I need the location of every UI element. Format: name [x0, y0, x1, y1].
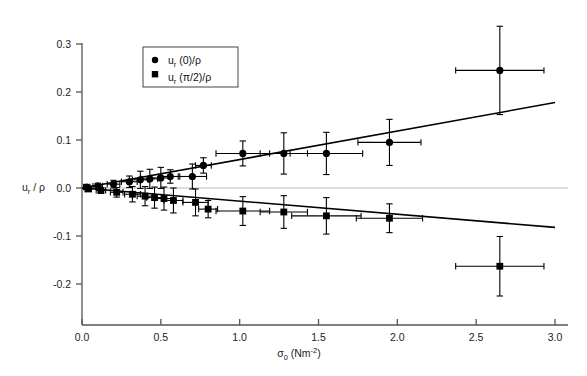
legend-marker-square-icon [152, 71, 158, 77]
data-point-circle [146, 175, 153, 182]
data-point-square [151, 194, 158, 201]
x-tick-label: 3.0 [548, 331, 563, 343]
data-point-square [85, 186, 92, 193]
chart-legend: ur (0)/ρ ur (π/2)/ρ [143, 47, 238, 87]
data-point-circle [386, 139, 393, 146]
data-point-square [98, 187, 105, 194]
data-point-square [280, 209, 287, 216]
data-point-circle [189, 173, 196, 180]
data-point-square [192, 199, 199, 206]
data-point-square [386, 215, 393, 222]
data-point-circle [496, 67, 503, 74]
data-point-square [170, 197, 177, 204]
data-point-circle [110, 181, 117, 188]
data-point-circle [167, 173, 174, 180]
data-point-circle [323, 150, 330, 157]
data-point-circle [137, 176, 144, 183]
y-tick-label: 0.3 [56, 38, 71, 50]
x-tick-label: 2.0 [390, 331, 405, 343]
data-point-square [496, 263, 503, 270]
data-point-circle [157, 174, 164, 181]
y-tick-label: -0.1 [53, 230, 71, 242]
data-point-square [113, 189, 120, 196]
data-point-square [205, 206, 212, 213]
scatter-plot: 0.00.51.01.52.02.53.0 0.30.20.10.0-0.1-0… [0, 0, 587, 376]
data-point-circle [126, 178, 133, 185]
data-point-square [142, 193, 149, 200]
y-tick-label: 0.0 [56, 182, 71, 194]
x-tick-label: 0.5 [154, 331, 169, 343]
legend-marker-circle-icon [152, 57, 158, 63]
data-point-circle [200, 162, 207, 169]
data-point-square [161, 195, 168, 202]
data-point-circle [280, 150, 287, 157]
data-point-square [129, 191, 136, 198]
x-tick-label: 2.5 [469, 331, 484, 343]
data-point-square [239, 208, 246, 215]
x-tick-label: 1.0 [232, 331, 247, 343]
x-tick-label: 0.0 [75, 331, 90, 343]
data-point-square [323, 212, 330, 219]
y-tick-label: 0.2 [56, 86, 71, 98]
y-tick-label: -0.2 [53, 278, 71, 290]
chart-figure: 0.00.51.01.52.02.53.0 0.30.20.10.0-0.1-0… [0, 0, 587, 376]
x-tick-label: 1.5 [311, 331, 326, 343]
y-tick-label: 0.1 [56, 134, 71, 146]
data-point-circle [239, 150, 246, 157]
